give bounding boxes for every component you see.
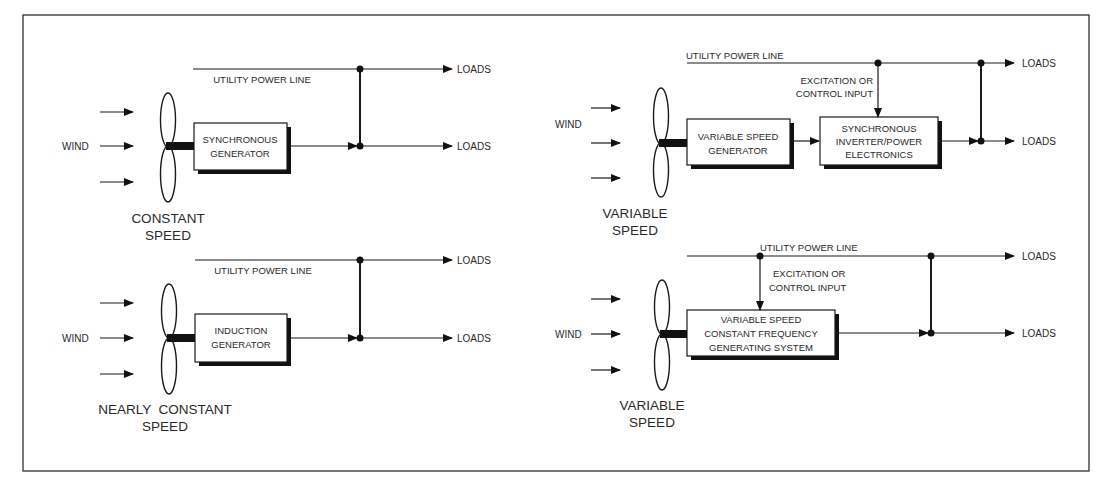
speed-label-line1: CONSTANT (131, 211, 204, 226)
wind-arrows (100, 303, 133, 374)
variable-speed-generator-box (687, 119, 790, 165)
wind-arrows (591, 108, 620, 178)
panel-variable-speed-inverter: WIND VARIABLE SPEED GENERATOR SYNCHRONOU… (555, 50, 1056, 238)
induction-generator-box (195, 314, 287, 362)
loads-label: LOADS (457, 255, 491, 266)
speed-label-line1: VARIABLE (602, 206, 667, 221)
junction-dot (928, 253, 935, 260)
panel-nearly-constant-speed: WIND INDUCTION GENERATOR NEARLY CONSTANT… (62, 255, 491, 434)
speed-label-line2: SPEED (612, 223, 658, 238)
wind-label: WIND (555, 119, 582, 130)
junction-dot (978, 60, 985, 67)
wind-label: WIND (62, 333, 89, 344)
excitation-label-line2: CONTROL INPUT (796, 88, 873, 99)
shaft (166, 142, 196, 150)
excitation-label-line2: CONTROL INPUT (769, 282, 846, 293)
junction-dot (875, 60, 882, 67)
loads-label: LOADS (1022, 328, 1056, 339)
loads-label: LOADS (457, 141, 491, 152)
speed-label-line2: SPEED (142, 419, 188, 434)
generator-label-line1: VARIABLE SPEED (698, 131, 779, 142)
loads-label: LOADS (457, 333, 491, 344)
inverter-label-line1: SYNCHRONOUS (842, 123, 917, 134)
panel-variable-speed-constant-frequency: WIND VARIABLE SPEED CONSTANT FREQUENCY G… (555, 242, 1056, 430)
generator-label-line2: GENERATOR (708, 145, 767, 156)
generator-label-line2: GENERATOR (211, 339, 270, 350)
speed-label-line1: NEARLY CONSTANT (98, 402, 232, 417)
shaft (660, 330, 690, 338)
generator-label-line2: CONSTANT FREQUENCY (704, 328, 818, 339)
generator-label-line3: GENERATING SYSTEM (709, 342, 813, 353)
speed-label-line2: SPEED (629, 415, 675, 430)
loads-label: LOADS (1022, 58, 1056, 69)
wind-label: WIND (62, 141, 89, 152)
junction-dot (357, 66, 364, 73)
wind-turbine-configurations-diagram: WIND SYNCHRONOUS GENERATOR CONSTANT SPEE… (0, 0, 1106, 483)
shaft (659, 139, 689, 147)
generator-label-line1: INDUCTION (215, 325, 268, 336)
shaft (167, 334, 197, 342)
wind-arrows (100, 112, 133, 182)
junction-dot (357, 143, 364, 150)
utility-power-line-label: UTILITY POWER LINE (760, 242, 857, 253)
wind-label: WIND (555, 329, 582, 340)
speed-label-line2: SPEED (145, 228, 191, 243)
inverter-label-line2: INVERTER/POWER (836, 136, 923, 147)
loads-label: LOADS (1022, 251, 1056, 262)
junction-dot (357, 335, 364, 342)
loads-label: LOADS (457, 64, 491, 75)
inverter-label-line3: ELECTRONICS (845, 149, 913, 160)
synchronous-generator-box (194, 123, 287, 170)
junction-dot (928, 330, 935, 337)
junction-dot (357, 257, 364, 264)
generator-label-line1: SYNCHRONOUS (203, 134, 278, 145)
junction-dot (757, 253, 764, 260)
generator-label-line2: GENERATOR (210, 148, 269, 159)
utility-power-line-label: UTILITY POWER LINE (686, 50, 783, 61)
excitation-label-line1: EXCITATION OR (773, 268, 846, 279)
utility-power-line-label: UTILITY POWER LINE (214, 265, 311, 276)
speed-label-line1: VARIABLE (619, 398, 684, 413)
generator-label-line1: VARIABLE SPEED (721, 314, 802, 325)
loads-label: LOADS (1022, 136, 1056, 147)
wind-arrows (591, 299, 620, 370)
panel-constant-speed: WIND SYNCHRONOUS GENERATOR CONSTANT SPEE… (62, 64, 491, 243)
excitation-label-line1: EXCITATION OR (801, 75, 874, 86)
utility-power-line-label: UTILITY POWER LINE (213, 74, 310, 85)
junction-dot (978, 138, 985, 145)
